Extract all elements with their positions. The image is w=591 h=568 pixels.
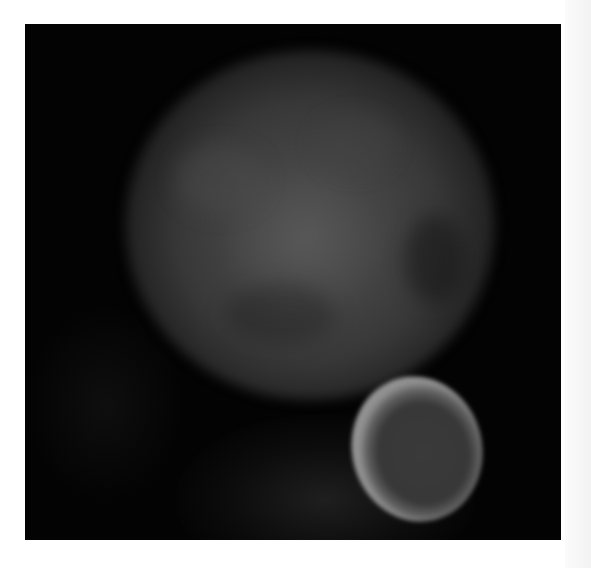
cell-texture xyxy=(225,284,335,344)
page-margin-band xyxy=(565,0,591,568)
page xyxy=(0,0,591,568)
cell-texture xyxy=(175,144,265,214)
cell-texture xyxy=(315,114,395,174)
cell-texture xyxy=(405,214,465,304)
micrograph-image xyxy=(25,24,561,540)
background-haze-left xyxy=(25,304,185,504)
